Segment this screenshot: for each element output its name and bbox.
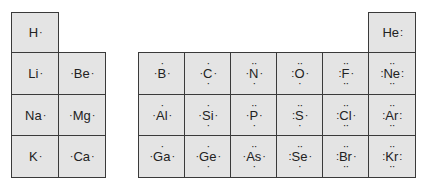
lewis-structure: H· [28, 25, 42, 40]
electron-dots-top: ·· [389, 100, 394, 111]
lewis-structure: ·C··· [199, 66, 216, 81]
element-symbol: O··· [293, 66, 305, 81]
electron-dots-right: · [350, 68, 353, 79]
lewis-structure: :Kr····: [382, 149, 401, 164]
lewis-structure: ·Al·· [152, 108, 171, 123]
electron-dots-top: ·· [297, 100, 302, 111]
lewis-structure: ·Ge··· [195, 149, 220, 164]
element-symbol: Na [24, 108, 43, 123]
element-cell-cl: :Cl····· [322, 94, 370, 137]
element-cell-na: Na· [11, 94, 59, 137]
element-cell-o: :O···· [276, 52, 324, 96]
lewis-structure: ·Ga·· [149, 149, 174, 164]
electron-dots-right: · [167, 68, 170, 79]
electron-dots-top: ·· [343, 100, 348, 111]
electron-dots-right: · [213, 68, 216, 79]
element-cell-s: :S···· [276, 94, 324, 137]
electron-dots-bottom: ·· [343, 161, 348, 172]
electron-dots-right: · [353, 110, 356, 121]
element-cell-kr: :Kr····: [368, 135, 416, 178]
element-symbol: Br···· [338, 149, 353, 164]
element-symbol: Be [73, 66, 91, 81]
element-cell-f: :F····· [322, 52, 370, 96]
electron-dots-right: · [215, 110, 218, 121]
electron-dots-top: ·· [297, 58, 302, 69]
electron-dots-right: · [217, 151, 220, 162]
element-symbol: Ar···· [384, 108, 399, 123]
element-symbol: Ge·· [198, 149, 217, 164]
electron-dots-right: · [305, 110, 308, 121]
element-cell-se: :Se···· [276, 135, 324, 178]
electron-dots-right: : [399, 151, 401, 162]
lewis-structure: K· [28, 149, 41, 164]
electron-dots-top: · [206, 100, 209, 111]
electron-dots-right: · [308, 151, 311, 162]
lewis-structure: :Ne····: [380, 66, 403, 81]
element-symbol: C·· [202, 66, 213, 81]
element-symbol: P··· [248, 108, 259, 123]
electron-dots-bottom: · [252, 120, 255, 131]
electron-dots-right: · [259, 110, 262, 121]
element-symbol: Ne···· [382, 66, 401, 81]
electron-dots-top: ·· [389, 141, 394, 152]
electron-dots-bottom: ·· [343, 78, 348, 89]
lewis-structure: :F····· [338, 66, 353, 81]
lewis-structure: ·Ca· [70, 149, 94, 164]
element-symbol: Kr···· [384, 149, 399, 164]
lewis-structure: He: [381, 25, 402, 40]
element-symbol: B· [156, 66, 167, 81]
element-cell-be: ·Be· [58, 52, 106, 96]
electron-dots-top: · [160, 100, 163, 111]
element-cell-k: K· [11, 135, 59, 178]
element-cell-h: H· [11, 12, 59, 54]
electron-dots-bottom: ·· [389, 120, 394, 131]
element-symbol: Ca [72, 149, 91, 164]
element-cell-ge: ·Ge··· [184, 135, 232, 178]
lewis-structure: :Cl····· [336, 108, 355, 123]
element-cell-c: ·C··· [184, 52, 232, 96]
electron-dots-top: · [160, 58, 163, 69]
electron-dots-right: : [399, 110, 401, 121]
element-symbol: K [28, 149, 39, 164]
electron-dots-bottom: · [252, 161, 255, 172]
element-symbol: He [381, 25, 400, 40]
electron-dots-top: ·· [343, 141, 348, 152]
electron-dots-top: ·· [251, 58, 256, 69]
electron-dots-right: · [262, 151, 265, 162]
element-symbol: F···· [340, 66, 350, 81]
electron-dots-bottom: ·· [343, 120, 348, 131]
lewis-structure: ·P···· [246, 108, 262, 123]
electron-dots-right: : [400, 27, 402, 38]
electron-dots-top: · [206, 58, 209, 69]
electron-dots-top: ·· [389, 58, 394, 69]
electron-dots-right: · [39, 27, 42, 38]
element-cell-ga: ·Ga·· [138, 135, 186, 178]
electron-dots-right: · [171, 151, 174, 162]
electron-dots-bottom: · [298, 161, 301, 172]
element-cell-as: ·As···· [230, 135, 278, 178]
element-symbol: H [28, 25, 39, 40]
electron-dots-top: ·· [251, 141, 256, 152]
electron-dots-right: · [39, 68, 42, 79]
lewis-structure: ·Be· [70, 66, 93, 81]
element-symbol: Se··· [290, 149, 308, 164]
electron-dots-right: · [169, 110, 172, 121]
lewis-structure: :Se···· [288, 149, 311, 164]
element-symbol: Ga· [152, 149, 171, 164]
element-cell-ne: :Ne····: [368, 52, 416, 96]
element-cell-br: :Br····· [322, 135, 370, 178]
electron-dots-bottom: ·· [389, 161, 394, 172]
element-symbol: Al· [155, 108, 169, 123]
electron-dots-right: · [92, 110, 95, 121]
lewis-structure: ·Mg· [69, 108, 94, 123]
electron-dots-bottom: · [206, 161, 209, 172]
electron-dots-bottom: ·· [389, 78, 394, 89]
element-cell-mg: ·Mg· [58, 94, 106, 137]
element-symbol: N··· [248, 66, 259, 81]
electron-dots-top: ·· [297, 141, 302, 152]
element-symbol: Si·· [201, 108, 215, 123]
element-symbol: Cl···· [338, 108, 352, 123]
element-cell-ar: :Ar····: [368, 94, 416, 137]
electron-dots-bottom: · [298, 120, 301, 131]
lewis-structure: :Br····· [336, 149, 356, 164]
